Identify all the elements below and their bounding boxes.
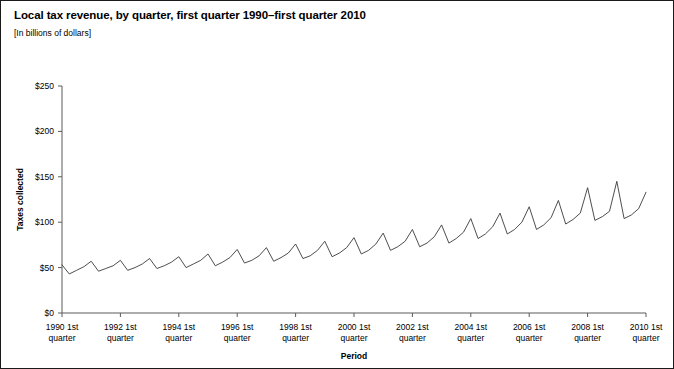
x-tick-label-second-line: quarter xyxy=(341,333,368,343)
y-axis-title: Taxes collected xyxy=(15,168,25,231)
x-tick-label: 2004 1st xyxy=(454,322,487,332)
y-tick-label: $250 xyxy=(35,81,54,91)
line-chart-svg: $0$50$100$150$200$250 1990 1stquarter199… xyxy=(1,1,674,369)
x-tick-label-second-line: quarter xyxy=(49,333,76,343)
x-tick-label: 1992 1st xyxy=(104,322,137,332)
y-tick-label: $100 xyxy=(35,217,54,227)
y-tick-label: $150 xyxy=(35,172,54,182)
x-tick-label: 1998 1st xyxy=(279,322,312,332)
x-tick-label-second-line: quarter xyxy=(107,333,134,343)
x-tick-label: 1996 1st xyxy=(221,322,254,332)
x-tick-label-second-line: quarter xyxy=(633,333,660,343)
y-axis: $0$50$100$150$200$250 xyxy=(35,81,62,318)
x-tick-label-second-line: quarter xyxy=(282,333,309,343)
y-tick-label: $50 xyxy=(40,263,54,273)
x-tick-label-second-line: quarter xyxy=(399,333,426,343)
x-tick-label: 2010 1st xyxy=(630,322,663,332)
figure-container: Local tax revenue, by quarter, first qua… xyxy=(0,0,674,369)
data-line-path xyxy=(62,181,646,274)
x-tick-label: 2000 1st xyxy=(338,322,371,332)
chart-plot-area: $0$50$100$150$200$250 1990 1stquarter199… xyxy=(1,1,674,369)
x-tick-label-second-line: quarter xyxy=(516,333,543,343)
y-tick-label: $200 xyxy=(35,126,54,136)
x-tick-label: 2006 1st xyxy=(513,322,546,332)
x-tick-label: 2002 1st xyxy=(396,322,429,332)
x-axis-title: Period xyxy=(341,351,367,361)
y-tick-label: $0 xyxy=(45,308,55,318)
data-series-local-tax-revenue xyxy=(62,181,646,274)
x-tick-label-second-line: quarter xyxy=(574,333,601,343)
x-tick-label: 1994 1st xyxy=(162,322,195,332)
x-tick-label: 1990 1st xyxy=(46,322,79,332)
x-tick-label-second-line: quarter xyxy=(224,333,251,343)
x-tick-label-second-line: quarter xyxy=(457,333,484,343)
x-tick-label-second-line: quarter xyxy=(165,333,192,343)
x-tick-label: 2008 1st xyxy=(571,322,604,332)
x-axis: 1990 1stquarter1992 1stquarter1994 1stqu… xyxy=(46,313,663,343)
